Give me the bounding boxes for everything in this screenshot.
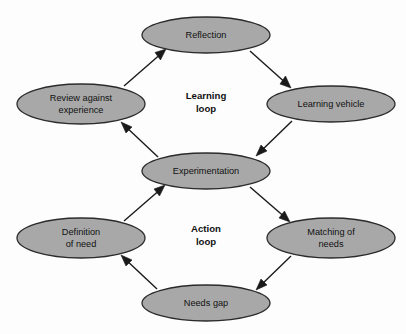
edge-line xyxy=(250,51,288,85)
edge-reflection-to-learning-vehicle xyxy=(250,51,291,88)
loop-label-learning-loop: Learning loop xyxy=(186,90,227,114)
edge-experimentation-to-review xyxy=(121,122,158,157)
loop-label-line-1: Action xyxy=(191,223,221,234)
loop-label-action-loop: Action loop xyxy=(191,223,221,247)
node-matching-of-needs[interactable]: Matching of needs xyxy=(267,218,395,258)
loop-label-line-1: Learning xyxy=(186,90,227,101)
edge-definition-to-experimentation xyxy=(124,185,165,221)
loop-label-line-2: loop xyxy=(196,236,216,247)
edge-line xyxy=(124,52,163,86)
loop-diagram: Reflection Learning vehicle Review again… xyxy=(0,0,406,334)
edge-line xyxy=(124,188,162,221)
node-shape[interactable] xyxy=(142,285,270,321)
node-shape[interactable] xyxy=(17,218,145,258)
node-definition-of-need[interactable]: Definition of need xyxy=(17,218,145,258)
node-learning-vehicle[interactable]: Learning vehicle xyxy=(267,86,395,122)
node-layer: Reflection Learning vehicle Review again… xyxy=(17,17,395,321)
edge-line xyxy=(250,187,287,219)
edge-matching-to-needs-gap xyxy=(256,256,291,290)
node-shape[interactable] xyxy=(142,153,270,189)
diagram-canvas: Reflection Learning vehicle Review again… xyxy=(0,0,406,334)
edge-experimentation-to-matching xyxy=(250,187,290,222)
node-shape[interactable] xyxy=(17,84,145,124)
node-shape[interactable] xyxy=(142,17,270,53)
node-reflection[interactable]: Reflection xyxy=(142,17,270,53)
node-shape[interactable] xyxy=(267,86,395,122)
node-experimentation[interactable]: Experimentation xyxy=(142,153,270,189)
arrow-head-icon xyxy=(280,76,291,88)
edge-review-to-reflection xyxy=(124,49,166,86)
edge-needs-gap-to-definition xyxy=(121,255,157,289)
node-needs-gap[interactable]: Needs gap xyxy=(142,285,270,321)
loop-label-line-2: loop xyxy=(196,103,216,114)
node-shape[interactable] xyxy=(267,218,395,258)
edge-learning-vehicle-to-experimentation xyxy=(256,121,292,156)
node-review-against-experience[interactable]: Review against experience xyxy=(17,84,145,124)
